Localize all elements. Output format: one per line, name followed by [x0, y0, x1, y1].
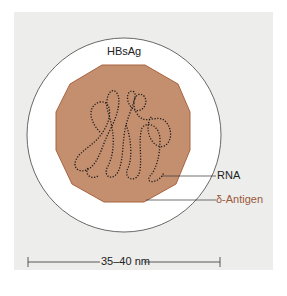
rna-label: RNA — [217, 169, 240, 181]
hdv-diagram — [0, 0, 287, 296]
delta-antigen-core — [56, 65, 190, 202]
scale-label: 35–40 nm — [101, 255, 150, 267]
hbsag-label: HBsAg — [107, 45, 141, 57]
delta-antigen-label: δ-Antigen — [216, 193, 263, 205]
